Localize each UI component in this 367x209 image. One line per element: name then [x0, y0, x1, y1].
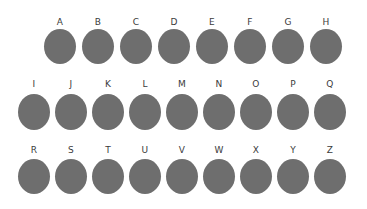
labeled-ellipse-o[interactable]: O	[240, 79, 272, 130]
ellipse-label-j: J	[70, 79, 73, 90]
ellipse-label-v: V	[179, 145, 185, 156]
ellipse-label-w: W	[214, 145, 223, 156]
labeled-ellipse-f[interactable]: F	[234, 17, 266, 64]
ellipse-label-s: S	[68, 145, 74, 156]
ellipse-label-x: X	[253, 145, 259, 156]
labeled-ellipse-j[interactable]: J	[55, 79, 87, 130]
labeled-ellipse-t[interactable]: T	[92, 145, 124, 194]
labeled-ellipse-h[interactable]: H	[310, 17, 342, 64]
ellipse-shape-h[interactable]	[310, 29, 342, 64]
labeled-ellipse-l[interactable]: L	[129, 79, 161, 130]
labeled-ellipse-q[interactable]: Q	[314, 79, 346, 130]
ellipse-label-z: Z	[327, 145, 333, 156]
labeled-ellipse-r[interactable]: R	[18, 145, 50, 194]
labeled-ellipse-g[interactable]: G	[272, 17, 304, 64]
ellipse-label-l: L	[142, 79, 147, 90]
ellipse-label-e: E	[209, 17, 215, 28]
ellipse-label-i: I	[33, 79, 36, 90]
ellipse-label-p: P	[290, 79, 296, 90]
ellipse-row-3: R S T U V W X Y	[18, 145, 346, 194]
ellipse-label-t: T	[105, 145, 111, 156]
ellipse-label-f: F	[247, 17, 252, 28]
ellipse-shape-a[interactable]	[44, 29, 76, 64]
ellipse-shape-b[interactable]	[82, 29, 114, 64]
ellipse-label-a: A	[57, 17, 63, 28]
labeled-ellipse-c[interactable]: C	[120, 17, 152, 64]
ellipse-shape-d[interactable]	[158, 29, 190, 64]
ellipse-shape-c[interactable]	[120, 29, 152, 64]
ellipse-shape-t[interactable]	[92, 159, 124, 194]
ellipse-shape-f[interactable]	[234, 29, 266, 64]
ellipse-label-q: Q	[326, 79, 333, 90]
ellipse-shape-w[interactable]	[203, 159, 235, 194]
labeled-ellipse-e[interactable]: E	[196, 17, 228, 64]
labeled-ellipse-b[interactable]: B	[82, 17, 114, 64]
ellipse-row-2: I J K L M N O P	[18, 79, 346, 130]
ellipse-label-k: K	[105, 79, 111, 90]
labeled-ellipse-m[interactable]: M	[166, 79, 198, 130]
labeled-ellipse-x[interactable]: X	[240, 145, 272, 194]
ellipse-shape-n[interactable]	[203, 94, 235, 130]
ellipse-shape-p[interactable]	[277, 94, 309, 130]
ellipse-shape-m[interactable]	[166, 94, 198, 130]
ellipse-shape-v[interactable]	[166, 159, 198, 194]
ellipse-shape-z[interactable]	[314, 159, 346, 194]
labeled-ellipse-s[interactable]: S	[55, 145, 87, 194]
labeled-ellipse-v[interactable]: V	[166, 145, 198, 194]
ellipse-grid-canvas: A B C D E F G H	[0, 0, 367, 209]
ellipse-shape-g[interactable]	[272, 29, 304, 64]
ellipse-shape-k[interactable]	[92, 94, 124, 130]
ellipse-shape-o[interactable]	[240, 94, 272, 130]
labeled-ellipse-k[interactable]: K	[92, 79, 124, 130]
ellipse-label-y: Y	[290, 145, 296, 156]
ellipse-label-n: N	[216, 79, 223, 90]
ellipse-shape-r[interactable]	[18, 159, 50, 194]
ellipse-label-g: G	[284, 17, 291, 28]
ellipse-shape-q[interactable]	[314, 94, 346, 130]
ellipse-shape-s[interactable]	[55, 159, 87, 194]
ellipse-shape-i[interactable]	[18, 94, 50, 130]
labeled-ellipse-p[interactable]: P	[277, 79, 309, 130]
ellipse-shape-u[interactable]	[129, 159, 161, 194]
ellipse-shape-y[interactable]	[277, 159, 309, 194]
labeled-ellipse-d[interactable]: D	[158, 17, 190, 64]
ellipse-label-d: D	[170, 17, 177, 28]
labeled-ellipse-a[interactable]: A	[44, 17, 76, 64]
labeled-ellipse-w[interactable]: W	[203, 145, 235, 194]
ellipse-shape-j[interactable]	[55, 94, 87, 130]
labeled-ellipse-n[interactable]: N	[203, 79, 235, 130]
labeled-ellipse-i[interactable]: I	[18, 79, 50, 130]
ellipse-label-m: M	[178, 79, 186, 90]
labeled-ellipse-u[interactable]: U	[129, 145, 161, 194]
ellipse-row-1: A B C D E F G H	[44, 17, 342, 64]
ellipse-label-c: C	[133, 17, 139, 28]
ellipse-label-o: O	[252, 79, 259, 90]
ellipse-shape-x[interactable]	[240, 159, 272, 194]
ellipse-shape-l[interactable]	[129, 94, 161, 130]
ellipse-label-b: B	[95, 17, 101, 28]
ellipse-label-r: R	[31, 145, 37, 156]
ellipse-shape-e[interactable]	[196, 29, 228, 64]
ellipse-label-h: H	[323, 17, 330, 28]
labeled-ellipse-z[interactable]: Z	[314, 145, 346, 194]
ellipse-label-u: U	[142, 145, 149, 156]
labeled-ellipse-y[interactable]: Y	[277, 145, 309, 194]
